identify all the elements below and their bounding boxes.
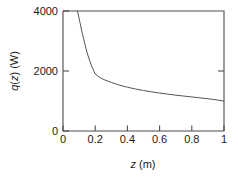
y-tick-label-0: 0 — [52, 125, 58, 137]
x-tick-label-1: 0.2 — [88, 133, 103, 145]
axis-frame — [63, 11, 224, 131]
x-axis-ticks — [63, 126, 224, 132]
x-tick-label-2: 0.4 — [120, 133, 135, 145]
chart-container: 0 0.2 0.4 0.6 0.8 1 0 2000 4000 q(z) (W)… — [0, 0, 238, 179]
y-axis-title: q(z) (W) — [8, 51, 20, 91]
data-series-line — [77, 11, 224, 101]
svg-text:q(z) (W): q(z) (W) — [8, 51, 20, 91]
x-tick-label-4: 0.8 — [184, 133, 199, 145]
x-tick-label-3: 0.6 — [152, 133, 167, 145]
y-tick-label-1: 2000 — [34, 65, 58, 77]
x-axis-title: z (m) — [129, 158, 155, 170]
y-axis-ticks — [63, 11, 69, 131]
x-axis-title-unit: (m) — [136, 158, 156, 170]
y-tick-label-2: 4000 — [34, 5, 58, 17]
x-tick-label-0: 0 — [60, 133, 66, 145]
x-tick-label-5: 1 — [221, 133, 227, 145]
chart-svg: 0 0.2 0.4 0.6 0.8 1 0 2000 4000 q(z) (W)… — [0, 0, 238, 179]
y-axis-title-unit: (W) — [8, 51, 20, 72]
